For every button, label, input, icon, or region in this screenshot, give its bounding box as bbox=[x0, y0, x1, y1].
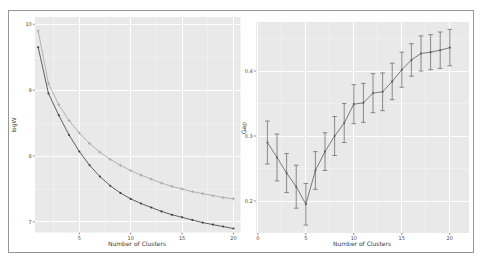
dot-marker bbox=[401, 69, 403, 71]
dot-marker bbox=[449, 47, 451, 49]
x-tick-label: 15 bbox=[179, 235, 185, 241]
dot-marker bbox=[353, 103, 355, 105]
dot-marker bbox=[334, 135, 336, 137]
x-tick-label: 5 bbox=[304, 235, 307, 241]
x-tick-label: 20 bbox=[447, 235, 453, 241]
logw-chart: 510152078910 bbox=[25, 17, 240, 241]
logw-x-axis-title: Number of Clusters bbox=[108, 240, 166, 247]
dot-marker bbox=[68, 134, 70, 136]
dot-marker bbox=[212, 224, 214, 226]
dot-marker bbox=[266, 141, 268, 143]
dot-marker bbox=[37, 46, 39, 48]
x-tick-label: 15 bbox=[399, 235, 405, 241]
y-tick-label: 8 bbox=[29, 153, 32, 159]
y-tick-label: 10 bbox=[25, 21, 31, 27]
dot-marker bbox=[78, 150, 80, 152]
dot-marker bbox=[99, 175, 101, 177]
dot-marker bbox=[276, 156, 278, 158]
dot-marker bbox=[191, 219, 193, 221]
dot-marker bbox=[119, 192, 121, 194]
x-tick-label: 0 bbox=[256, 235, 259, 241]
x-tick-label: 20 bbox=[230, 235, 236, 241]
dot-marker bbox=[130, 198, 132, 200]
dot-marker bbox=[295, 186, 297, 188]
gap-chart: 051015200.20.30.4 bbox=[245, 22, 469, 241]
gap-y-axis-title: Gap bbox=[240, 122, 247, 134]
dot-marker bbox=[89, 164, 91, 166]
dot-marker bbox=[232, 227, 234, 229]
y-tick-label: 7 bbox=[29, 219, 32, 225]
gap-x-axis-title: Number of Clusters bbox=[333, 240, 391, 247]
dot-marker bbox=[47, 92, 49, 94]
y-tick-label: 9 bbox=[29, 87, 32, 93]
dot-marker bbox=[109, 185, 111, 187]
dot-marker bbox=[171, 214, 173, 216]
logw-y-axis-title: logW bbox=[10, 117, 17, 132]
dot-marker bbox=[439, 49, 441, 51]
x-tick-label: 5 bbox=[78, 235, 81, 241]
gap-statistic-figure: 510152078910051015200.20.30.4 Number of … bbox=[0, 0, 483, 267]
dot-marker bbox=[343, 122, 345, 124]
dot-marker bbox=[410, 59, 412, 61]
dot-marker bbox=[202, 222, 204, 224]
dot-marker bbox=[286, 172, 288, 174]
dot-marker bbox=[314, 169, 316, 171]
dot-marker bbox=[420, 52, 422, 54]
dot-marker bbox=[430, 51, 432, 53]
dot-marker bbox=[324, 151, 326, 153]
dot-marker bbox=[150, 206, 152, 208]
dot-marker bbox=[305, 203, 307, 205]
panel-background bbox=[35, 17, 241, 233]
dot-marker bbox=[372, 92, 374, 94]
y-tick-label: 0.2 bbox=[245, 198, 253, 204]
dot-marker bbox=[160, 210, 162, 212]
y-tick-label: 0.4 bbox=[245, 68, 253, 74]
dot-marker bbox=[391, 80, 393, 82]
dot-marker bbox=[382, 91, 384, 93]
dot-marker bbox=[181, 216, 183, 218]
dot-marker bbox=[58, 114, 60, 116]
dot-marker bbox=[140, 202, 142, 204]
dot-marker bbox=[362, 102, 364, 104]
dot-marker bbox=[222, 226, 224, 228]
